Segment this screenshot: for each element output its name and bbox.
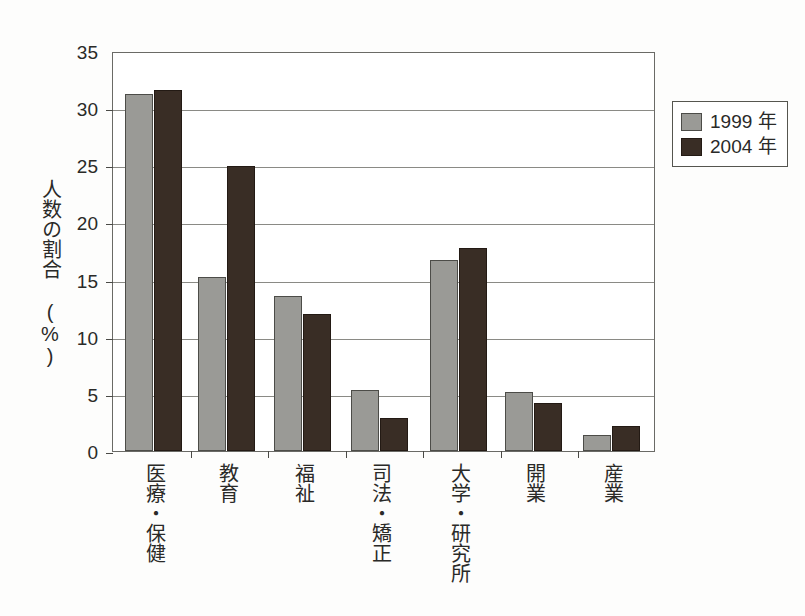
x-axis-tick-mark (501, 451, 502, 458)
y-axis-tick-label: 35 (58, 43, 98, 62)
y-axis-tick-mark (106, 396, 113, 397)
x-axis-tick-mark (346, 451, 347, 458)
y-axis-tick-label: 15 (58, 272, 98, 291)
y-axis-tick-mark (106, 339, 113, 340)
x-axis-category-label: 産業 (595, 463, 625, 503)
x-axis-tick-mark (191, 451, 192, 458)
x-axis-category-label: 教育 (210, 463, 240, 503)
x-axis-category-label: 司法・矯正 (364, 463, 394, 563)
bar[interactable] (505, 392, 533, 451)
x-axis-category-label: 大学・研究所 (442, 463, 472, 583)
y-axis-tick-mark (106, 167, 113, 168)
y-axis-tick-label: 0 (58, 443, 98, 462)
legend-swatch-icon (681, 138, 702, 156)
x-axis-category-label: 開業 (518, 463, 548, 503)
y-axis-tick-mark (106, 453, 113, 454)
y-axis-tick-label: 30 (58, 100, 98, 119)
y-axis-tick-label: 5 (58, 386, 98, 405)
bars-layer (113, 53, 654, 451)
bar-group (505, 53, 562, 451)
bar[interactable] (198, 277, 226, 451)
y-axis-tick-mark (106, 110, 113, 111)
bar-group (351, 53, 408, 451)
x-axis-category-label: 医療・保健 (138, 463, 168, 563)
bar-group (583, 53, 640, 451)
x-axis-tick-mark (423, 451, 424, 458)
bar[interactable] (125, 94, 153, 451)
bar[interactable] (154, 90, 182, 451)
bar[interactable] (227, 166, 255, 451)
legend: 1999 年2004 年 (672, 101, 788, 167)
bar-group (430, 53, 487, 451)
bar[interactable] (303, 314, 331, 451)
legend-item[interactable]: 1999 年 (681, 109, 777, 134)
y-axis-tick-mark (106, 282, 113, 283)
bar[interactable] (612, 426, 640, 451)
plot-area (112, 52, 655, 452)
x-axis-category-label: 福祉 (287, 463, 317, 503)
bar[interactable] (351, 390, 379, 451)
bar[interactable] (430, 260, 458, 451)
y-axis-tick-label: 10 (58, 329, 98, 348)
bar-group (125, 53, 182, 451)
legend-swatch-icon (681, 113, 702, 131)
y-axis-tick-mark (106, 224, 113, 225)
bar-group (198, 53, 255, 451)
legend-item-label: 1999 年 (710, 112, 777, 131)
bar[interactable] (380, 418, 408, 451)
legend-item[interactable]: 2004 年 (681, 134, 777, 159)
bar[interactable] (583, 435, 611, 451)
y-axis-tick-label: 20 (58, 214, 98, 233)
bar-chart-figure: 人数の割合 (%) 35302520151050 医療・保健教育福祉司法・矯正大… (0, 0, 805, 616)
x-axis-tick-mark (268, 451, 269, 458)
bar[interactable] (534, 403, 562, 451)
bar[interactable] (459, 248, 487, 451)
legend-item-label: 2004 年 (710, 137, 777, 156)
x-axis-tick-mark (578, 451, 579, 458)
legend-rows: 1999 年2004 年 (681, 109, 777, 159)
bar[interactable] (274, 296, 302, 451)
bar-group (274, 53, 331, 451)
y-axis-tick-label: 25 (58, 157, 98, 176)
